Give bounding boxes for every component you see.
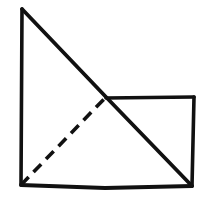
rectangle-right-edge: [192, 97, 194, 186]
rectangle-top-edge: [106, 97, 194, 98]
geometry-figure-canvas: [0, 0, 217, 202]
left-vertical-edge: [21, 9, 22, 185]
geometry-figure-svg: [0, 0, 217, 202]
